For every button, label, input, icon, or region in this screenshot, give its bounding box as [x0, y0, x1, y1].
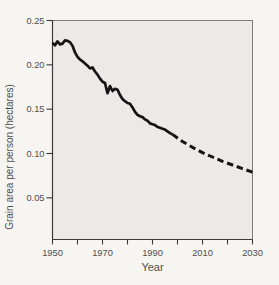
x-tick-label: 2030 — [242, 248, 263, 258]
y-axis-title: Grain area per person (hectares) — [4, 84, 15, 230]
y-tick-label: 0.10 — [26, 149, 44, 159]
y-tick-label: 0.15 — [26, 104, 44, 114]
grain-area-per-person-figure: 195019701990201020300.050.100.150.200.25… — [0, 0, 279, 285]
x-tick-label: 1970 — [92, 248, 113, 258]
x-tick-label: 2010 — [192, 248, 213, 258]
y-tick-label: 0.20 — [26, 60, 44, 70]
plot-area — [53, 21, 253, 240]
x-tick-label: 1950 — [42, 248, 63, 258]
y-tick-label: 0.05 — [26, 193, 44, 203]
x-tick-label: 1990 — [142, 248, 163, 258]
y-tick-label: 0.25 — [26, 16, 44, 26]
x-axis-title: Year — [141, 261, 164, 273]
grain-area-chart-svg: 195019701990201020300.050.100.150.200.25… — [0, 0, 279, 285]
